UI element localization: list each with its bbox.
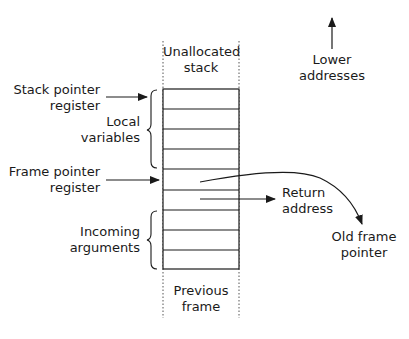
return-address-label: Return address — [282, 185, 362, 217]
stack-pointer-register-label: Stack pointer register — [0, 82, 100, 114]
unallocated-stack-label: Unallocated stack — [163, 44, 239, 76]
stack-pointer-line-1: Stack pointer — [0, 82, 100, 98]
incoming-arguments-label: Incoming arguments — [60, 224, 140, 256]
incoming-arguments-line-1: Incoming — [60, 224, 140, 240]
incoming-arguments-brace — [147, 211, 157, 269]
local-variables-brace — [147, 90, 157, 168]
local-variables-line-2: variables — [60, 130, 140, 146]
local-variables-label: Local variables — [60, 114, 140, 146]
previous-frame-line-2: frame — [163, 299, 239, 315]
frame-pointer-register-label: Frame pointer register — [0, 164, 100, 196]
incoming-arguments-line-2: arguments — [60, 240, 140, 256]
local-variables-line-1: Local — [60, 114, 140, 130]
return-address-line-2: address — [282, 201, 362, 217]
frame-pointer-line-2: register — [0, 180, 100, 196]
old-frame-pointer-label: Old frame pointer — [320, 229, 408, 261]
old-frame-pointer-line-2: pointer — [320, 245, 408, 261]
unallocated-stack-line-2: stack — [163, 60, 239, 76]
stack-pointer-line-2: register — [0, 98, 100, 114]
lower-addresses-line-1: Lower — [292, 52, 372, 68]
lower-addresses-label: Lower addresses — [292, 52, 372, 84]
return-address-line-1: Return — [282, 185, 362, 201]
stack-slots — [163, 89, 239, 269]
old-frame-pointer-line-1: Old frame — [320, 229, 408, 245]
previous-frame-label: Previous frame — [163, 283, 239, 315]
previous-frame-line-1: Previous — [163, 283, 239, 299]
frame-pointer-line-1: Frame pointer — [0, 164, 100, 180]
lower-addresses-line-2: addresses — [292, 68, 372, 84]
unallocated-stack-line-1: Unallocated — [163, 44, 239, 60]
